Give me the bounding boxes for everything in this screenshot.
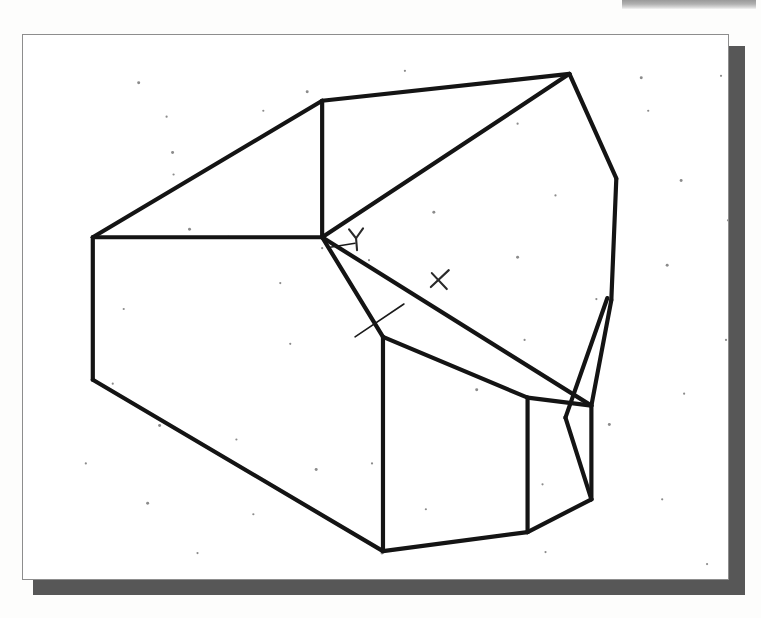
scan-speck (541, 483, 543, 485)
right-upper-to-sliver (611, 178, 616, 300)
axis-label-x (431, 270, 449, 289)
scan-speck (262, 110, 264, 112)
construction-line-layer (330, 243, 404, 337)
scan-speck (196, 552, 198, 554)
scan-speck (475, 388, 478, 391)
node-to-right-long (322, 237, 591, 405)
scan-speck (516, 256, 519, 259)
scan-speck (544, 551, 546, 553)
scan-speck (432, 211, 435, 214)
scan-speck (112, 383, 114, 385)
scan-speck (368, 259, 370, 261)
scan-speckle-layer (85, 70, 728, 579)
scan-speck (123, 308, 125, 310)
scan-speck (608, 423, 611, 426)
scan-speck (404, 70, 406, 72)
scan-speck (85, 462, 87, 464)
scan-speck (666, 264, 669, 267)
right-node-down (565, 418, 591, 500)
right-upper-slope (569, 74, 616, 179)
scan-speck (171, 151, 174, 154)
scan-speck (595, 298, 597, 300)
axis-annotation-layer (349, 228, 449, 289)
wireframe-edge-layer (93, 74, 617, 551)
scan-speck (321, 247, 323, 249)
lower-left-diagonal (93, 380, 383, 551)
scan-speck (172, 173, 174, 175)
scan-speck (661, 498, 663, 500)
scan-speck (235, 438, 237, 440)
scan-speck (706, 563, 708, 565)
scan-speck (720, 75, 722, 77)
screenshot-root (0, 0, 761, 618)
upper-left-slope (93, 101, 322, 237)
axis-label-y (349, 228, 363, 250)
bottom-front-edge (383, 532, 528, 551)
front-top-to-right (383, 337, 528, 398)
scan-speck (725, 339, 727, 341)
node-to-front-top (322, 237, 383, 337)
scan-speck (289, 343, 291, 345)
scan-speck (188, 228, 191, 231)
scan-speck (146, 502, 149, 505)
scan-speck (517, 123, 519, 125)
bottom-right-edge (528, 499, 592, 532)
scan-speck (252, 513, 254, 515)
scan-speck (425, 508, 427, 510)
scan-speck (523, 339, 525, 341)
scan-speck (554, 194, 556, 196)
scan-speck (371, 462, 373, 464)
scan-edge-band (622, 0, 756, 9)
scan-speck (306, 90, 309, 93)
scan-speck (279, 282, 281, 284)
scan-speck (165, 116, 167, 118)
scan-speck (158, 424, 161, 427)
scan-speck (315, 468, 318, 471)
polyhedron-wireframe-canvas (23, 35, 728, 579)
scan-speck (647, 110, 649, 112)
scan-speck (683, 393, 685, 395)
scan-speck (727, 219, 728, 221)
scan-speck (640, 76, 643, 79)
scan-speck (137, 81, 140, 84)
drawing-panel (22, 34, 729, 580)
scan-speck (680, 179, 683, 182)
